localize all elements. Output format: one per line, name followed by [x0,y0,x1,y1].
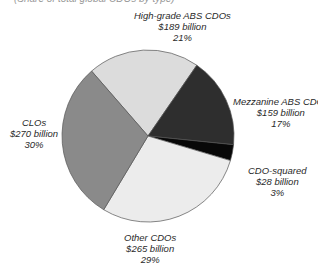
label-name: CLOs [10,117,58,128]
label-percent: 29% [124,254,176,265]
label-high-grade-abs-cdos: High-grade ABS CDOs $189 billion 21% [134,10,231,43]
label-amount: $28 billion [248,176,307,187]
label-other-cdos: Other CDOs $265 billion 29% [124,232,176,265]
label-amount: $270 billion [10,128,58,139]
label-percent: 21% [134,32,231,43]
label-percent: 30% [10,139,58,150]
label-name: Mezzanine ABS CDOs [233,96,318,107]
label-percent: 17% [233,118,318,129]
label-amount: $265 billion [124,243,176,254]
label-name: Other CDOs [124,232,176,243]
label-amount: $159 billion [233,107,318,118]
label-name: High-grade ABS CDOs [134,10,231,21]
label-mezzanine-abs-cdos: Mezzanine ABS CDOs $159 billion 17% [233,96,318,129]
label-clos: CLOs $270 billion 30% [10,117,58,150]
label-name: CDO-squared [248,165,307,176]
label-cdo-squared: CDO-squared $28 billion 3% [248,165,307,198]
label-amount: $189 billion [134,21,231,32]
label-percent: 3% [248,187,307,198]
